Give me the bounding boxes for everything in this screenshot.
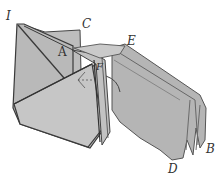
folded-paper-diagram: I C A E F D B: [0, 0, 221, 180]
label-D: D: [168, 163, 178, 175]
label-C: C: [82, 18, 91, 30]
folded-paper-drawing: [0, 0, 221, 180]
accordion-strip: [112, 44, 206, 160]
label-A: A: [58, 46, 67, 58]
label-B: B: [206, 143, 215, 155]
label-F: F: [96, 62, 103, 72]
label-I: I: [6, 10, 11, 22]
label-E: E: [127, 35, 136, 47]
